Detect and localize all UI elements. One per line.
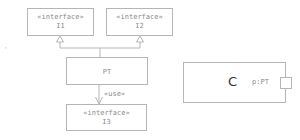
stereotype-label: «interface» <box>67 109 146 118</box>
interface-i1[interactable]: «interface» I1 <box>27 8 94 36</box>
stereotype-label: «interface» <box>28 13 93 22</box>
stereotype-label: «interface» <box>107 13 172 22</box>
realization-arrowhead-i2 <box>137 36 144 42</box>
interface-name: I1 <box>28 22 93 31</box>
component-name: C <box>228 74 237 89</box>
stray-mark: , <box>4 42 8 49</box>
class-name: PT <box>67 68 147 76</box>
realization-arrowhead-i1 <box>57 36 64 42</box>
interface-name: I3 <box>67 118 146 127</box>
interface-name: I2 <box>107 22 172 31</box>
use-dependency-label: «use» <box>104 90 125 98</box>
class-pt[interactable]: PT <box>66 57 148 85</box>
interface-i2[interactable]: «interface» I2 <box>106 8 173 36</box>
interface-i3[interactable]: «interface» I3 <box>66 104 147 131</box>
port-label: p:PT <box>252 78 269 86</box>
port-square[interactable] <box>280 77 292 89</box>
